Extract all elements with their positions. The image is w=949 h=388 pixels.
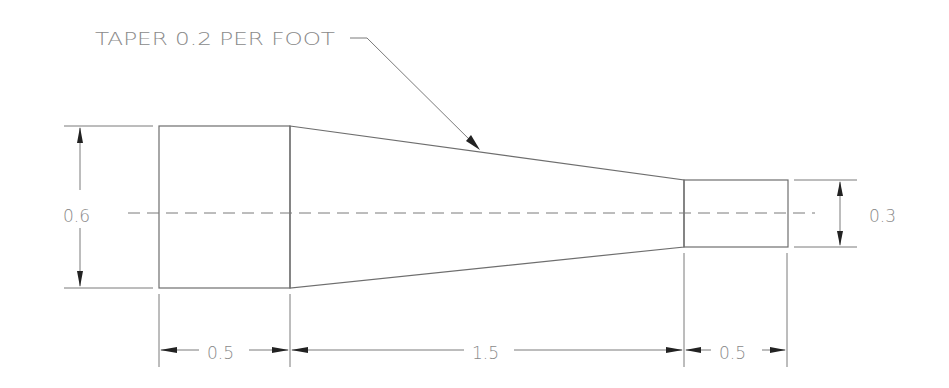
left-height-dimension: 0.6	[63, 126, 153, 288]
arrow-left-icon	[160, 347, 177, 353]
right-length-dimension: 0.5	[685, 343, 786, 363]
left-length-dimension: 0.5	[160, 343, 289, 363]
arrow-up-icon	[837, 181, 843, 196]
left-cylinder	[159, 126, 290, 288]
taper-note-label: TAPER 0.2 PER FOOT	[95, 29, 336, 49]
technical-drawing: 0.6 0.3 0.5 1.5 0.5	[0, 0, 949, 388]
arrow-down-icon	[837, 231, 843, 246]
arrow-left-icon	[685, 347, 701, 353]
arrow-right-icon	[770, 347, 786, 353]
tapered-section	[290, 126, 684, 288]
taper-note: TAPER 0.2 PER FOOT	[95, 29, 480, 150]
left-height-label: 0.6	[63, 206, 90, 226]
leader-arrow-icon	[466, 135, 480, 150]
arrow-up-icon	[77, 127, 83, 143]
shaft-outline	[159, 126, 788, 288]
arrow-down-icon	[77, 271, 83, 287]
right-height-dimension: 0.3	[794, 180, 896, 247]
arrow-right-icon	[666, 347, 683, 353]
right-length-label: 0.5	[719, 343, 746, 363]
taper-length-label: 1.5	[472, 343, 499, 363]
left-length-label: 0.5	[207, 343, 234, 363]
taper-length-dimension: 1.5	[291, 343, 683, 363]
arrow-left-icon	[291, 347, 308, 353]
right-height-label: 0.3	[869, 206, 896, 226]
arrow-right-icon	[272, 347, 289, 353]
